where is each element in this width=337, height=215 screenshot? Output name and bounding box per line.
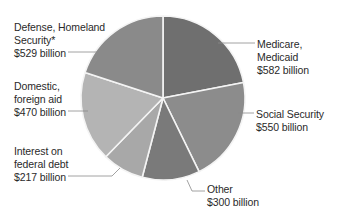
label-defense: Defense, Homeland Security* $529 billion (14, 21, 105, 60)
label-interest: Interest on federal debt $217 billion (14, 145, 68, 184)
label-medicare: Medicare, Medicaid $582 billion (257, 38, 309, 77)
label-domestic: Domestic, foreign aid $470 billion (14, 80, 66, 119)
label-social-security: Social Security $550 billion (256, 108, 324, 134)
leader-line (68, 168, 120, 176)
pie-slices (81, 16, 245, 180)
leader-line (187, 180, 205, 191)
label-other: Other $300 billion (207, 183, 259, 209)
